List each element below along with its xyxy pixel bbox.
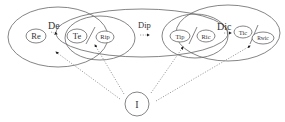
node-tip: Tip (170, 30, 190, 42)
edge-i-region-2 (95, 45, 124, 94)
node-rwic: Rwic (252, 32, 274, 44)
edge-i-region-4 (151, 47, 183, 93)
relation-dip: Dip (138, 20, 151, 30)
svg-text:Rwic: Rwic (257, 35, 269, 41)
svg-text:Rip: Rip (100, 33, 109, 40)
svg-text:Te: Te (73, 31, 82, 41)
svg-text:I: I (135, 99, 138, 110)
svg-text:Tip: Tip (176, 33, 185, 40)
relation-de: De (48, 20, 60, 31)
node-ric: Ric (197, 30, 215, 42)
svg-text:Tic: Tic (239, 29, 248, 36)
node-te: Te (67, 29, 87, 43)
region-1-ellipse (8, 7, 108, 67)
svg-text:Re: Re (31, 31, 41, 41)
svg-text:Ric: Ric (201, 33, 210, 40)
relation-dic: Dic (217, 21, 232, 32)
edge-i-region-5 (156, 46, 250, 101)
node-rip: Rip (96, 31, 114, 43)
node-re: Re (26, 29, 46, 43)
diagram: Re De Te Rip Dip Tip Ric Dic (0, 0, 285, 122)
node-i: I (125, 92, 149, 116)
node-tic: Tic (234, 26, 252, 38)
